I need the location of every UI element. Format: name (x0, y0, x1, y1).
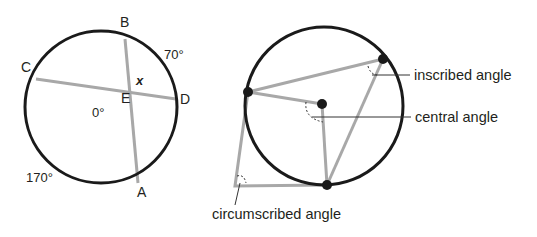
right-figure: inscribed angle central angle circumscri… (212, 27, 512, 222)
point-label-e: E (121, 90, 130, 106)
geometry-diagram: B C D E A x 70° 0° 170° inscribed angle (0, 0, 537, 237)
point-bottom (322, 180, 332, 190)
label-central-angle: central angle (415, 109, 498, 125)
arc-label-170: 170° (26, 170, 53, 185)
left-figure: B C D E A x 70° 0° 170° (21, 14, 190, 200)
chord-ba (125, 39, 138, 183)
label-inscribed-angle: inscribed angle (414, 67, 512, 83)
angle-label-x: x (135, 73, 144, 88)
point-label-d: D (180, 91, 190, 107)
point-label-b: B (120, 14, 129, 30)
arc-label-70: 70° (164, 47, 184, 62)
point-label-c: C (21, 59, 31, 75)
point-top-right (378, 54, 388, 64)
point-label-a: A (137, 184, 147, 200)
label-circumscribed-angle: circumscribed angle (212, 206, 341, 222)
point-left (243, 87, 253, 97)
chord-cd (36, 79, 176, 99)
central-radius-1 (248, 92, 322, 104)
point-center (317, 99, 327, 109)
arc-label-0: 0° (92, 105, 104, 120)
inscribed-chord-1 (248, 59, 383, 92)
circumscribed-angle-arc (237, 176, 246, 183)
central-radius-2 (322, 104, 327, 185)
